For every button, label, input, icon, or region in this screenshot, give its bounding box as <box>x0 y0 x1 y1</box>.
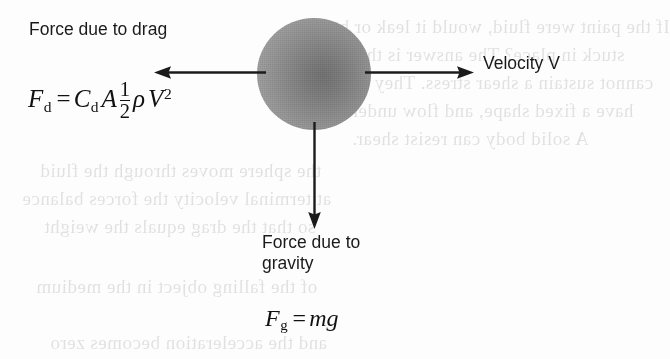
drag-equation: Fd=CdA12ρV2 <box>28 79 172 122</box>
gravity-eq-equals: = <box>293 305 307 331</box>
gravity-arrow <box>308 122 321 229</box>
velocity-label: Velocity V <box>483 53 560 74</box>
gravity-eq-F: F <box>265 305 280 331</box>
drag-eq-half-fraction: 12 <box>120 79 130 122</box>
drag-eq-rho: ρ <box>133 85 145 112</box>
gravity-force-label: Force due to gravity <box>262 232 360 274</box>
drag-force-label: Force due to drag <box>29 19 167 40</box>
drag-eq-numerator: 1 <box>120 79 130 100</box>
drag-eq-C-subscript: d <box>90 98 98 115</box>
drag-eq-C: C <box>74 85 91 112</box>
drag-eq-F: F <box>28 85 43 112</box>
gravity-equation: Fg=mg <box>265 305 339 334</box>
drag-eq-F-subscript: d <box>43 98 51 115</box>
gravity-eq-m: m <box>309 305 326 331</box>
drag-eq-V-exponent: 2 <box>163 85 171 102</box>
gravity-eq-F-subscript: g <box>280 317 288 333</box>
drag-eq-V: V <box>148 85 163 112</box>
drag-arrow <box>154 66 266 79</box>
gravity-eq-g: g <box>327 305 339 331</box>
drag-eq-A: A <box>102 85 117 112</box>
drag-eq-equals: = <box>57 85 71 112</box>
velocity-arrow <box>365 66 474 79</box>
drag-eq-denominator: 2 <box>120 100 130 122</box>
